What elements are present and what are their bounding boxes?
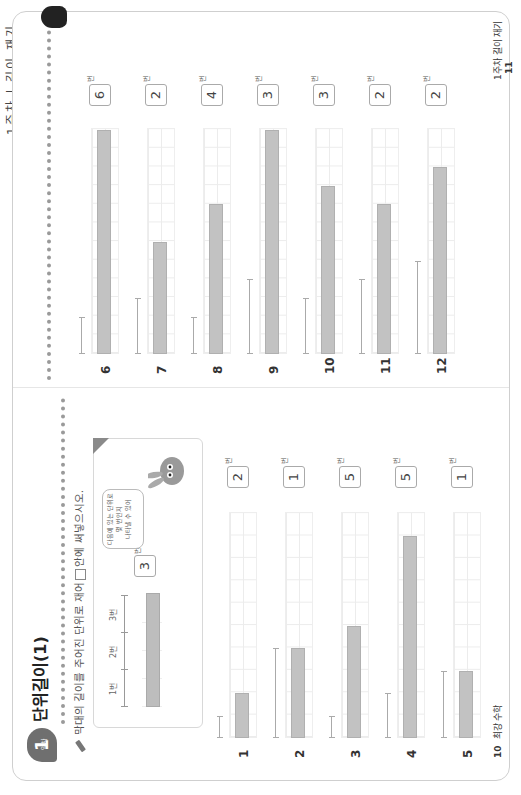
unit-label: 번 — [253, 76, 263, 82]
problem-number: 7 — [155, 366, 169, 374]
unit-length-segment — [387, 693, 388, 738]
example-ruler: 1번 2번 3번 — [124, 595, 141, 707]
unit-length-segment — [305, 298, 306, 354]
page-fold-icon — [93, 438, 109, 454]
measured-bar — [403, 536, 417, 738]
unit-label: 번 — [141, 76, 151, 82]
measured-bar — [265, 130, 279, 354]
example-answer-box: 3 — [134, 555, 156, 577]
problem-number: 5 — [461, 750, 475, 758]
problem-number: 3 — [349, 750, 363, 758]
measured-bar — [97, 130, 111, 354]
unit-length-segment — [417, 261, 418, 354]
page-spread: 일차 1 단위길이(1) 막대의 길이를 주어진 단위로 재어안에 써넣으시오.… — [12, 11, 510, 781]
unit-label: 번 — [279, 458, 289, 464]
ruler-label: 3번 — [107, 609, 118, 621]
unit-length-segment — [275, 648, 276, 738]
instruction-text-a: 막대의 길이를 주어진 단위로 재어 — [73, 582, 85, 735]
answer-box[interactable]: 6 — [89, 84, 111, 106]
measured-bar — [377, 204, 391, 354]
example-card: 1번 2번 3번 3 번 다음에 있는 단위로 몇 번인지 나타낼 수 있어 — [93, 438, 203, 728]
problem-number: 10 — [323, 357, 337, 374]
answer-box[interactable]: 5 — [395, 466, 417, 488]
unit-length-segment — [361, 279, 362, 354]
dotted-divider — [61, 398, 65, 724]
problem-11: 11 2 번 — [355, 14, 411, 374]
measured-bar — [235, 693, 249, 738]
bubble-line: 다음에 있는 단위로 — [105, 490, 114, 548]
unit-label: 번 — [421, 76, 431, 82]
unit-length-segment — [81, 317, 82, 354]
footer-label: 최강 수학 — [493, 705, 503, 740]
unit-label: 번 — [309, 76, 319, 82]
measured-bar — [153, 242, 167, 354]
rabbit-character-icon — [148, 453, 186, 493]
answer-box[interactable]: 5 — [339, 466, 361, 488]
instruction-text-b: 안에 써넣으시오. — [73, 490, 85, 567]
problem-number: 12 — [435, 357, 449, 374]
page-number: 10 — [493, 745, 503, 758]
unit-label: 번 — [391, 458, 401, 464]
bubble-line: 몇 번인지 — [114, 490, 123, 548]
bubble-line: 나타낼 수 있어 — [123, 490, 132, 548]
measured-bar — [291, 648, 305, 738]
unit-label: 번 — [197, 76, 207, 82]
unit-label: 번 — [223, 458, 233, 464]
page-number: 11 — [504, 61, 514, 74]
speech-bubble: 다음에 있는 단위로 몇 번인지 나타낼 수 있어 — [102, 489, 144, 549]
problem-8: 8 4 번 — [187, 14, 243, 374]
unit-label: 번 — [365, 76, 375, 82]
problem-number: 4 — [405, 750, 419, 758]
answer-box[interactable]: 2 — [425, 84, 447, 106]
pencil-icon — [75, 740, 86, 753]
unit-label: 번 — [335, 458, 345, 464]
answer-box[interactable]: 1 — [451, 466, 473, 488]
unit-length-segment — [193, 317, 194, 354]
problem-9: 9 3 번 — [243, 14, 299, 374]
problem-number: 1 — [237, 750, 251, 758]
problem-2: 2 1 번 — [269, 388, 325, 758]
ruler-label: 1번 — [107, 683, 118, 695]
problem-3: 3 5 번 — [325, 388, 381, 758]
measured-bar — [209, 204, 223, 354]
mascot-icon — [41, 6, 67, 28]
example-bar — [146, 593, 160, 707]
right-footer: 1주차 길이 재기11 — [491, 12, 514, 80]
measured-bar — [347, 626, 361, 738]
answer-box[interactable]: 3 — [257, 84, 279, 106]
lesson-badge: 일차 1 — [27, 728, 57, 762]
badge-label: 일차 — [29, 738, 59, 750]
answer-box[interactable]: 4 — [201, 84, 223, 106]
unit-length-segment — [331, 716, 332, 738]
problem-number: 2 — [293, 750, 307, 758]
footer-label: 1주차 길이 재기 — [493, 21, 503, 80]
instruction: 막대의 길이를 주어진 단위로 재어안에 써넣으시오. — [71, 490, 86, 752]
problem-number: 8 — [211, 366, 225, 374]
measured-bar — [433, 167, 447, 354]
problem-7: 7 2 번 — [131, 14, 187, 374]
unit-length-segment — [137, 298, 138, 354]
workbook-spread-rotated: 1주차 | 길이 재기 일차 1 단위길이(1) 막대의 길이를 주어진 단위로… — [0, 0, 521, 795]
problem-12: 12 2 번 — [411, 14, 467, 374]
problem-10: 10 3 번 — [299, 14, 355, 374]
answer-box[interactable]: 2 — [369, 84, 391, 106]
answer-box[interactable]: 2 — [145, 84, 167, 106]
problem-number: 11 — [379, 357, 393, 374]
problem-number: 9 — [267, 366, 281, 374]
unit-length-segment — [219, 716, 220, 738]
answer-box[interactable]: 1 — [283, 466, 305, 488]
answer-square-icon — [75, 569, 86, 580]
ruler-label: 2번 — [107, 646, 118, 658]
problem-5: 5 1 번 — [437, 388, 493, 758]
left-footer: 10최강 수학 — [491, 705, 504, 758]
problem-number: 6 — [99, 366, 113, 374]
measured-bar — [459, 671, 473, 738]
unit-length-segment — [443, 671, 444, 738]
page-title: 단위길이(1) — [27, 636, 51, 722]
answer-box[interactable]: 2 — [227, 466, 249, 488]
answer-box[interactable]: 3 — [313, 84, 335, 106]
unit-label: 번 — [447, 458, 457, 464]
unit-label: 번 — [85, 76, 95, 82]
problem-1: 1 2 번 — [213, 388, 269, 758]
dotted-divider — [47, 30, 51, 380]
